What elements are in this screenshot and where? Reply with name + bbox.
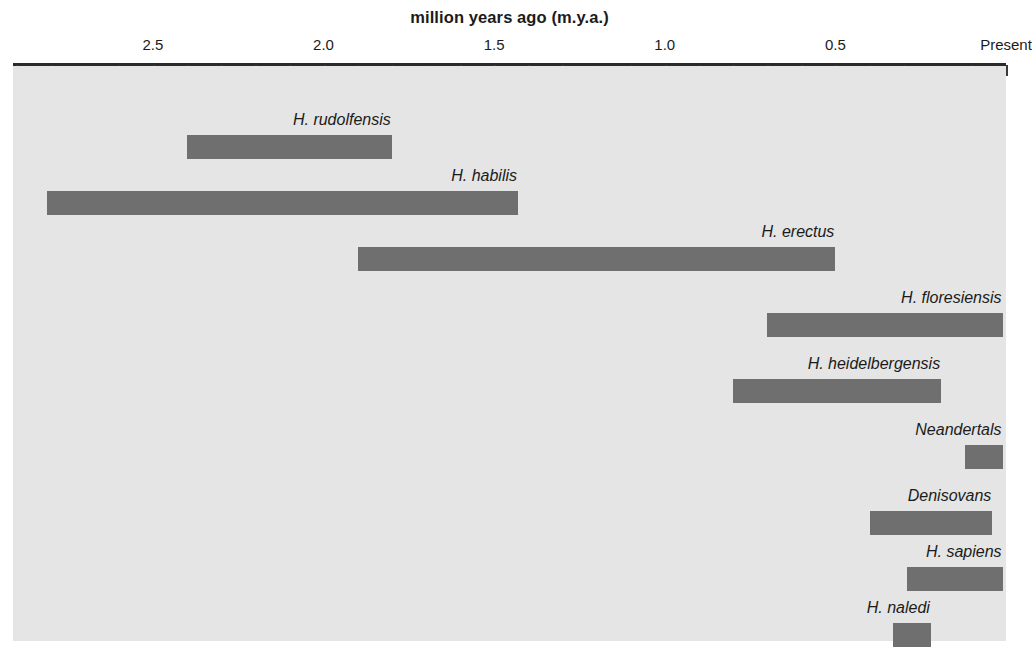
range-bar[interactable] — [965, 445, 1003, 469]
x-tick-label-0-5: 0.5 — [825, 36, 846, 53]
species-label: Neandertals — [915, 421, 1001, 439]
chart-title: million years ago (m.y.a.) — [0, 8, 1019, 27]
species-label: H. floresiensis — [901, 289, 1001, 307]
timeline-row: H. erectus — [13, 223, 1006, 279]
x-tick-label-2-5: 2.5 — [142, 36, 163, 53]
species-label: H. heidelbergensis — [808, 355, 941, 373]
range-bar[interactable] — [893, 623, 931, 647]
x-tick-label-2-0: 2.0 — [313, 36, 334, 53]
range-bar[interactable] — [187, 135, 392, 159]
species-label: Denisovans — [908, 487, 992, 505]
range-bar[interactable] — [870, 511, 993, 535]
species-label: H. sapiens — [926, 543, 1002, 561]
timeline-row: Neandertals — [13, 421, 1006, 477]
timeline-row: H. floresiensis — [13, 289, 1006, 345]
x-tick-label-1-0: 1.0 — [654, 36, 675, 53]
range-bar[interactable] — [358, 247, 836, 271]
timeline-row: H. naledi — [13, 599, 1006, 654]
timeline-row: H. sapiens — [13, 543, 1006, 599]
species-label: H. naledi — [867, 599, 930, 617]
timeline-row: H. rudolfensis — [13, 111, 1006, 167]
timeline-row: Denisovans — [13, 487, 1006, 543]
timeline-row: H. heidelbergensis — [13, 355, 1006, 411]
plot-area: H. rudolfensisH. habilisH. erectusH. flo… — [13, 66, 1006, 641]
species-label: H. rudolfensis — [293, 111, 391, 129]
x-tick-label-1-5: 1.5 — [484, 36, 505, 53]
range-bar[interactable] — [47, 191, 518, 215]
timeline-row: H. habilis — [13, 167, 1006, 223]
range-bar[interactable] — [767, 313, 1002, 337]
tick-mark-0.0 — [1006, 65, 1008, 76]
species-label: H. habilis — [451, 167, 517, 185]
range-bar[interactable] — [733, 379, 941, 403]
species-label: H. erectus — [761, 223, 834, 241]
x-tick-label-present: Present — [980, 36, 1032, 53]
range-bar[interactable] — [907, 567, 1003, 591]
